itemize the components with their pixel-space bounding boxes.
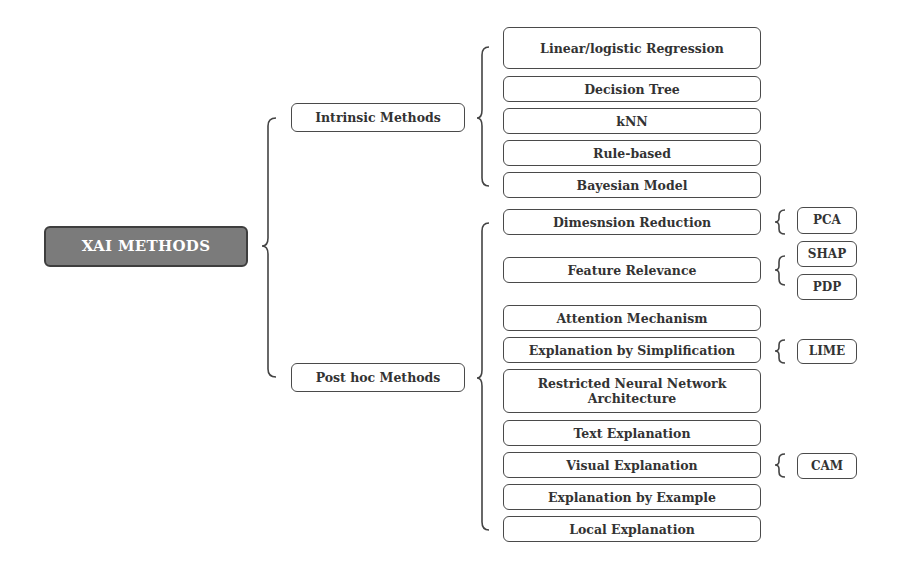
method-restricted-neural-network: Restricted Neural Network Architecture [503, 369, 761, 413]
method-knn: kNN [503, 108, 761, 134]
method-visual-explanation: Visual Explanation [503, 452, 761, 478]
method-attention-mechanism: Attention Mechanism [503, 305, 761, 331]
method-text-explanation: Text Explanation [503, 420, 761, 446]
feature-brace [775, 256, 785, 285]
method-local-explanation: Local Explanation [503, 516, 761, 542]
cam-brace [775, 454, 785, 477]
example-pdp: PDP [797, 274, 857, 300]
posthoc-methods-node: Post hoc Methods [291, 363, 465, 392]
method-feature-relevance: Feature Relevance [503, 257, 761, 283]
method-decision-tree: Decision Tree [503, 76, 761, 102]
method-explanation-by-example: Explanation by Example [503, 484, 761, 510]
example-shap: SHAP [797, 241, 857, 267]
xai-methods-root: XAI METHODS [44, 226, 248, 267]
posthoc-brace [477, 223, 489, 530]
method-linear-logistic-regression: Linear/logistic Regression [503, 27, 761, 69]
method-dimension-reduction: Dimesnsion Reduction [503, 209, 761, 235]
lime-brace [775, 340, 785, 363]
root-brace [262, 118, 276, 377]
example-pca: PCA [797, 207, 857, 234]
intrinsic-brace [477, 47, 489, 186]
example-cam: CAM [797, 453, 857, 479]
method-rule-based: Rule-based [503, 140, 761, 166]
method-explanation-by-simplification: Explanation by Simplification [503, 337, 761, 363]
method-bayesian-model: Bayesian Model [503, 172, 761, 198]
pca-brace [775, 210, 785, 234]
example-lime: LIME [797, 339, 857, 364]
intrinsic-methods-node: Intrinsic Methods [291, 103, 465, 132]
connector-braces [0, 0, 899, 569]
